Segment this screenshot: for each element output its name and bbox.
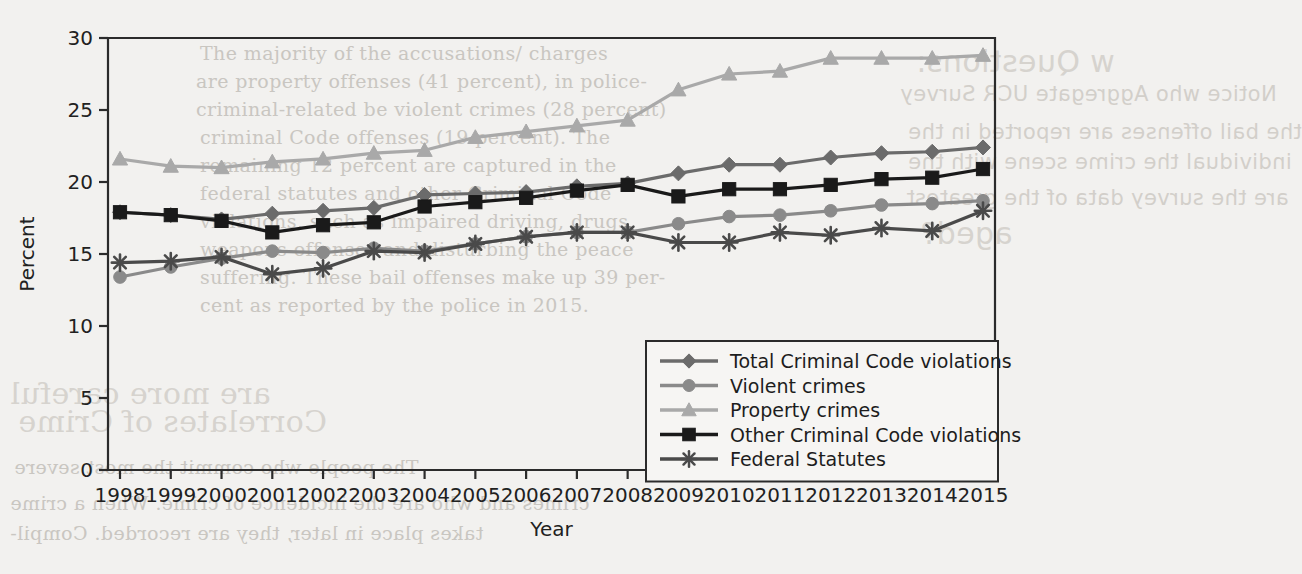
x-tick-label: 2000: [196, 483, 247, 507]
x-tick-label: 2009: [653, 483, 704, 507]
data-point: [683, 428, 696, 441]
y-tick-label: 0: [80, 458, 93, 482]
x-tick-label: 2007: [551, 483, 602, 507]
data-point: [570, 184, 583, 197]
data-point: [418, 200, 431, 213]
data-point: [469, 196, 482, 209]
x-tick-label: 2001: [247, 483, 298, 507]
x-tick-label: 2005: [450, 483, 501, 507]
y-axis-label: Percent: [15, 216, 39, 291]
series-circle: [114, 194, 990, 283]
legend-label: Violent crimes: [730, 375, 866, 397]
x-tick-label: 2002: [298, 483, 349, 507]
x-tick-label: 2008: [602, 483, 653, 507]
data-point: [723, 210, 736, 223]
legend-label: Total Criminal Code violations: [729, 350, 1012, 372]
data-point: [874, 146, 889, 161]
y-tick-label: 15: [68, 242, 93, 266]
x-tick-label: 2014: [907, 483, 958, 507]
data-point: [215, 214, 228, 227]
data-point: [113, 206, 126, 219]
y-tick-label: 25: [68, 98, 93, 122]
series-diamond: [113, 140, 991, 227]
data-point: [773, 183, 786, 196]
series-square: [113, 162, 989, 239]
x-tick-label: 2013: [856, 483, 907, 507]
data-point: [114, 271, 127, 284]
data-point: [266, 245, 279, 258]
x-tick-label: 2012: [805, 483, 856, 507]
x-tick-label: 1999: [145, 483, 196, 507]
data-point: [772, 157, 787, 172]
y-tick-label: 5: [80, 386, 93, 410]
y-axis-ticks: 051015202530: [68, 26, 108, 482]
x-axis-label: Year: [529, 517, 573, 541]
data-point: [316, 203, 331, 218]
legend-label: Property crimes: [730, 399, 880, 421]
x-tick-label: 2006: [501, 483, 552, 507]
data-point: [672, 217, 685, 230]
data-point: [671, 166, 686, 181]
data-point: [976, 140, 991, 155]
data-point: [367, 216, 380, 229]
x-tick-label: 2015: [958, 483, 1009, 507]
y-tick-label: 20: [68, 170, 93, 194]
x-tick-label: 1998: [95, 483, 146, 507]
data-point: [926, 171, 939, 184]
data-point: [824, 178, 837, 191]
data-point: [823, 150, 838, 165]
data-point: [723, 183, 736, 196]
chart-legend: Total Criminal Code violationsViolent cr…: [646, 341, 1021, 482]
data-point: [824, 205, 837, 218]
data-point: [266, 226, 279, 239]
series-asterisk: [112, 203, 991, 283]
legend-label: Federal Statutes: [730, 448, 886, 470]
data-point: [683, 380, 695, 392]
data-point: [875, 199, 888, 212]
x-tick-label: 2004: [399, 483, 450, 507]
series-layer: [112, 48, 991, 284]
data-point: [317, 246, 330, 259]
x-tick-label: 2003: [348, 483, 399, 507]
x-tick-label: 2010: [704, 483, 755, 507]
y-tick-label: 30: [68, 26, 93, 50]
y-tick-label: 10: [68, 314, 93, 338]
data-point: [265, 206, 280, 221]
data-point: [774, 209, 787, 222]
data-point: [621, 178, 634, 191]
data-point: [875, 173, 888, 186]
data-point: [366, 200, 381, 215]
data-point: [672, 190, 685, 203]
data-point: [925, 144, 940, 159]
data-point: [316, 219, 329, 232]
data-point: [722, 157, 737, 172]
data-point: [164, 209, 177, 222]
data-point: [976, 162, 989, 175]
data-point: [520, 191, 533, 204]
legend-label: Other Criminal Code violations: [730, 424, 1021, 446]
x-tick-label: 2011: [754, 483, 805, 507]
data-point: [926, 197, 939, 210]
